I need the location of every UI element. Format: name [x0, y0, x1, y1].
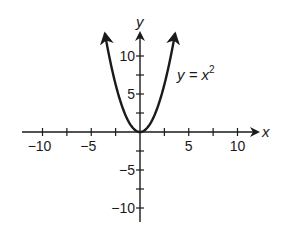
x-axis-tick-labels: −10−5510 — [28, 138, 246, 154]
x-tick-label: 10 — [230, 138, 246, 154]
curve-label-exponent: 2 — [209, 64, 215, 75]
x-tick-label: −5 — [80, 138, 96, 154]
y-tick-label: −5 — [119, 162, 135, 178]
x-axis-label: x — [261, 123, 270, 140]
y-axis-label: y — [135, 13, 145, 30]
x-tick-label: −10 — [28, 138, 52, 154]
y-tick-label: −10 — [111, 200, 135, 216]
parabola-right-branch — [140, 34, 175, 133]
curve-equation-label: y = x2 — [176, 64, 215, 83]
y-axis: 105−5−10 y — [111, 13, 145, 222]
x-tick-label: 5 — [185, 138, 193, 154]
y-tick-label: 5 — [127, 86, 135, 102]
parabola-chart: −10−5510 x 105−5−10 y y = x2 — [0, 0, 282, 243]
curve-label-prefix: y = x — [176, 66, 210, 83]
y-tick-label: 10 — [119, 48, 135, 64]
